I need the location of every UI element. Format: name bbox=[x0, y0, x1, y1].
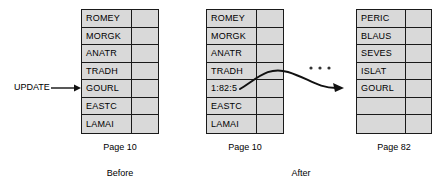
ellipsis-dot bbox=[309, 66, 312, 69]
page-table-after-source: ROMEY MORGK ANATR TRADH 1:82:5 EASTC LAM… bbox=[206, 9, 284, 134]
row-value: TRADH bbox=[207, 63, 257, 80]
row-blank-cell bbox=[132, 28, 158, 45]
row-value: ANATR bbox=[82, 45, 132, 62]
row-value: GOURL bbox=[82, 80, 132, 97]
table-row-updated: GOURL bbox=[82, 80, 158, 98]
row-value: LAMAI bbox=[82, 115, 132, 133]
row-blank-cell bbox=[132, 10, 158, 27]
row-value bbox=[357, 98, 406, 115]
row-blank-cell bbox=[257, 80, 283, 97]
table-row: EASTC bbox=[207, 98, 283, 116]
row-blank-cell bbox=[406, 98, 431, 115]
row-blank-cell bbox=[257, 98, 283, 115]
row-value: GOURL bbox=[357, 80, 406, 97]
ellipsis-dot bbox=[327, 66, 330, 69]
table-row: MORGK bbox=[207, 28, 283, 46]
table-row-relocated: GOURL bbox=[357, 80, 431, 98]
row-blank-cell bbox=[257, 115, 283, 133]
table-row: EASTC bbox=[82, 98, 158, 116]
table-row: MORGK bbox=[82, 28, 158, 46]
row-blank-cell bbox=[132, 98, 158, 115]
row-value: MORGK bbox=[207, 28, 257, 45]
row-blank-cell bbox=[257, 28, 283, 45]
table-row: LAMAI bbox=[82, 115, 158, 133]
forwarding-pointer-arrow-head bbox=[333, 83, 344, 92]
row-value: ISLAT bbox=[357, 63, 406, 80]
row-blank-cell bbox=[132, 45, 158, 62]
row-value: ROMEY bbox=[82, 10, 132, 27]
row-value: ANATR bbox=[207, 45, 257, 62]
row-blank-cell bbox=[132, 115, 158, 133]
row-value: BLAUS bbox=[357, 28, 406, 45]
row-blank-cell bbox=[406, 28, 431, 45]
table-row: TRADH bbox=[82, 63, 158, 81]
row-blank-cell bbox=[406, 115, 431, 133]
table-row: ROMEY bbox=[207, 10, 283, 28]
row-value: PERIC bbox=[357, 10, 406, 27]
row-value: EASTC bbox=[207, 98, 257, 115]
table-row-empty bbox=[357, 98, 431, 116]
caption-after: After bbox=[262, 168, 340, 178]
row-value: EASTC bbox=[82, 98, 132, 115]
forwarding-pointer-value: 1:82:5 bbox=[207, 80, 257, 97]
table-row: ISLAT bbox=[357, 63, 431, 81]
row-blank-cell bbox=[132, 80, 158, 97]
row-blank-cell bbox=[406, 63, 431, 80]
table-row: TRADH bbox=[207, 63, 283, 81]
row-value: TRADH bbox=[82, 63, 132, 80]
page-table-before: ROMEY MORGK ANATR TRADH GOURL EASTC LAMA… bbox=[81, 9, 159, 134]
row-blank-cell bbox=[132, 63, 158, 80]
table-row-forwarding-pointer: 1:82:5 bbox=[207, 80, 283, 98]
table-row: BLAUS bbox=[357, 28, 431, 46]
table-row: ROMEY bbox=[82, 10, 158, 28]
row-value: ROMEY bbox=[207, 10, 257, 27]
row-value bbox=[357, 115, 406, 133]
forwarding-pointer-diagram: ROMEY MORGK ANATR TRADH GOURL EASTC LAMA… bbox=[0, 0, 447, 189]
table-row: LAMAI bbox=[207, 115, 283, 133]
caption-page-before: Page 10 bbox=[81, 142, 159, 152]
caption-page-after-source: Page 10 bbox=[206, 142, 284, 152]
table-row: ANATR bbox=[207, 45, 283, 63]
ellipsis-dot bbox=[318, 66, 321, 69]
row-blank-cell bbox=[257, 63, 283, 80]
row-blank-cell bbox=[257, 45, 283, 62]
row-blank-cell bbox=[406, 45, 431, 62]
row-value: LAMAI bbox=[207, 115, 257, 133]
update-arrow-head bbox=[74, 85, 81, 92]
row-value: MORGK bbox=[82, 28, 132, 45]
table-row: PERIC bbox=[357, 10, 431, 28]
table-row: SEVES bbox=[357, 45, 431, 63]
table-row: ANATR bbox=[82, 45, 158, 63]
caption-page-after-destination: Page 82 bbox=[356, 142, 432, 152]
row-blank-cell bbox=[257, 10, 283, 27]
update-label: UPDATE bbox=[14, 82, 50, 92]
page-table-after-destination: PERIC BLAUS SEVES ISLAT GOURL bbox=[356, 9, 432, 134]
caption-before: Before bbox=[81, 168, 159, 178]
table-row-empty bbox=[357, 115, 431, 133]
row-blank-cell bbox=[406, 80, 431, 97]
row-value: SEVES bbox=[357, 45, 406, 62]
row-blank-cell bbox=[406, 10, 431, 27]
